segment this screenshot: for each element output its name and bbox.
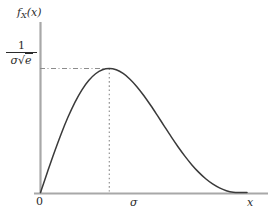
y-axis-label: fX(x)	[17, 7, 42, 20]
radicand-e: e	[25, 53, 33, 67]
x-tick-label-origin: 0	[36, 196, 43, 207]
x-tick-label-sigma: σ	[130, 197, 138, 208]
x-axis-label: x	[247, 197, 253, 208]
y-tick-label-peak-value: 1 σ√e	[5, 40, 38, 66]
rayleigh-pdf-figure: fX(x) 1 σ√e 0 σ x	[0, 0, 279, 220]
rayleigh-pdf-curve	[41, 68, 248, 192]
plot-canvas	[0, 0, 279, 220]
fraction-denominator: σ√e	[5, 54, 38, 66]
fraction-numerator: 1	[5, 40, 38, 52]
y-axis-label-argument: (x)	[27, 6, 42, 19]
radical-sign: √	[18, 54, 25, 67]
denominator-sigma: σ	[10, 54, 18, 67]
